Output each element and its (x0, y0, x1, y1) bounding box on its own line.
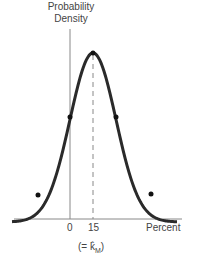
x-tick-0: 0 (67, 222, 73, 233)
y-axis-label: Probability Density (40, 1, 102, 25)
tail-point-left (36, 193, 41, 198)
tail-point-right (149, 192, 154, 197)
annotation-close: ) (101, 241, 104, 252)
inflection-point-left (68, 115, 73, 120)
peak-point (91, 51, 96, 56)
y-axis-label-line2: Density (40, 13, 102, 25)
inflection-point-right (114, 115, 119, 120)
x-tick-15: 15 (88, 222, 99, 233)
annotation-text: (= k̂ (78, 241, 95, 252)
mean-annotation: (= k̂M) (78, 241, 104, 254)
y-axis-label-line1: Probability (40, 1, 102, 13)
x-axis-label: Percent (146, 222, 180, 233)
